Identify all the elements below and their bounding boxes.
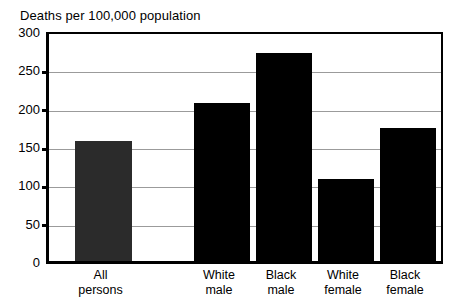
x-axis-label-white-female: White female bbox=[309, 268, 377, 298]
y-axis-tick-label: 150 bbox=[0, 141, 40, 154]
bar-all-persons[interactable] bbox=[75, 141, 132, 261]
y-axis-label-group: 300 250 200 150 100 50 0 bbox=[0, 32, 40, 262]
y-axis-tick-50 bbox=[42, 224, 49, 227]
x-axis-label-black-male: Black male bbox=[249, 268, 313, 298]
x-axis-label-group: All persons White male Black male White … bbox=[46, 268, 443, 306]
bar-white-female[interactable] bbox=[318, 179, 374, 261]
x-axis-label-all-persons: All persons bbox=[72, 268, 129, 298]
y-axis-tick-label: 200 bbox=[0, 102, 40, 115]
y-axis-tick-250 bbox=[42, 71, 49, 74]
y-axis-tick-150 bbox=[42, 148, 49, 151]
x-axis-label-black-female: Black female bbox=[371, 268, 439, 298]
y-axis-tick-200 bbox=[42, 109, 49, 112]
plot-inner bbox=[49, 34, 441, 261]
chart-title: Deaths per 100,000 population bbox=[20, 8, 201, 24]
y-axis-tick-label: 250 bbox=[0, 64, 40, 77]
plot-area bbox=[46, 32, 443, 264]
bar-chart-figure: Deaths per 100,000 population 300 250 20… bbox=[0, 0, 463, 307]
bar-white-male[interactable] bbox=[194, 103, 250, 261]
bar-black-male[interactable] bbox=[256, 53, 312, 262]
y-axis-tick-label: 300 bbox=[0, 26, 40, 39]
bar-black-female[interactable] bbox=[380, 128, 436, 261]
y-axis-tick-label: 0 bbox=[0, 256, 40, 269]
y-axis-tick-label: 100 bbox=[0, 179, 40, 192]
y-axis-tick-100 bbox=[42, 186, 49, 189]
x-axis-label-white-male: White male bbox=[187, 268, 251, 298]
y-axis-tick-label: 50 bbox=[0, 217, 40, 230]
gridline-250 bbox=[49, 72, 441, 73]
